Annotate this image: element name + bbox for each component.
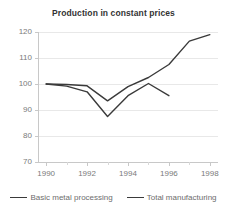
xtick-label-1996: 1996 — [154, 170, 184, 178]
legend-label: Total manufacturing — [147, 193, 217, 202]
axis-lines — [38, 32, 218, 163]
tick-marks — [35, 33, 210, 167]
series-line-1 — [46, 35, 210, 101]
chart-container: Production in constant prices 7080901001… — [0, 0, 227, 218]
xtick-label-1992: 1992 — [72, 170, 102, 178]
ytick-label-70: 70 — [10, 158, 32, 166]
legend-item-total-manufacturing: Total manufacturing — [127, 193, 217, 202]
chart-legend: Basic metal processing Total manufacturi… — [0, 193, 227, 202]
series-lines — [46, 35, 210, 117]
ytick-label-90: 90 — [10, 106, 32, 114]
legend-line-swatch — [10, 197, 27, 198]
series-line-2 — [46, 83, 169, 116]
xtick-label-1998: 1998 — [195, 170, 225, 178]
legend-label: Basic metal processing — [30, 193, 112, 202]
ytick-label-120: 120 — [10, 28, 32, 36]
xtick-label-1990: 1990 — [31, 170, 61, 178]
ytick-label-100: 100 — [10, 80, 32, 88]
legend-item-basic-metal-processing: Basic metal processing — [10, 193, 112, 202]
gridlines — [38, 33, 218, 163]
legend-line-swatch — [127, 197, 144, 198]
ytick-label-110: 110 — [10, 54, 32, 62]
plot-area — [0, 0, 227, 218]
xtick-label-1994: 1994 — [113, 170, 143, 178]
ytick-label-80: 80 — [10, 132, 32, 140]
